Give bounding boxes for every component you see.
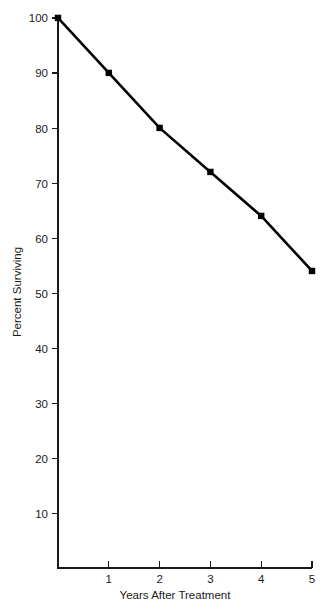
y-tick-label-30: 30 <box>35 398 48 410</box>
x-axis-title: Years After Treatment <box>120 589 232 601</box>
data-markers-group <box>55 15 315 274</box>
y-tick-label-50: 50 <box>35 288 48 300</box>
y-tick-label-10: 10 <box>35 508 48 520</box>
data-point <box>55 15 61 21</box>
data-point <box>156 125 162 131</box>
data-point <box>207 169 213 175</box>
y-tick-label-80: 80 <box>35 123 48 135</box>
chart-canvas: 100 90 80 70 60 50 40 30 20 10 1 2 3 4 5… <box>0 0 329 610</box>
data-line-percent-surviving <box>58 18 312 271</box>
x-tick-label-2: 2 <box>156 573 162 585</box>
survival-chart: 100 90 80 70 60 50 40 30 20 10 1 2 3 4 5… <box>0 0 329 610</box>
data-point <box>106 70 112 76</box>
x-tick-label-3: 3 <box>207 573 213 585</box>
x-tick-label-4: 4 <box>258 573 265 585</box>
data-point <box>258 213 264 219</box>
y-tick-label-90: 90 <box>35 67 48 79</box>
y-axis-title: Percent Surviving <box>11 247 23 337</box>
y-tick-label-20: 20 <box>35 453 48 465</box>
y-tick-label-100: 100 <box>29 12 48 24</box>
y-tick-label-70: 70 <box>35 178 48 190</box>
y-tick-label-40: 40 <box>35 343 48 355</box>
x-tick-label-1: 1 <box>106 573 112 585</box>
y-tick-label-60: 60 <box>35 233 48 245</box>
x-tick-label-5: 5 <box>309 573 315 585</box>
data-point <box>309 268 315 274</box>
